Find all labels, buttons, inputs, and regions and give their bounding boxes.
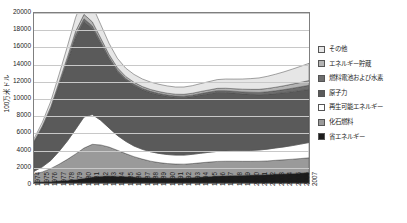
legend-item[interactable]: エネルギー貯蔵	[318, 57, 407, 72]
x-axis-tick: 1989	[161, 172, 167, 186]
legend-item[interactable]: 原子力	[318, 86, 407, 101]
legend-item-label: 原子力	[329, 90, 347, 96]
x-axis-tick: 1994	[203, 172, 209, 186]
x-axis-tick: 1981	[94, 172, 100, 186]
x-axis-tick: 1999	[245, 172, 251, 186]
legend-item-label: 燃料電池および水素	[329, 75, 383, 81]
plot-area	[33, 12, 310, 184]
gridline	[34, 133, 309, 134]
gridline	[34, 30, 309, 31]
x-axis-tick: 1977	[61, 172, 67, 186]
gridline	[34, 47, 309, 48]
gridline	[34, 168, 309, 169]
legend-item-label: 再生可能エネルギー	[329, 104, 383, 110]
gridline	[34, 65, 309, 66]
legend-item[interactable]: 再生可能エネルギー	[318, 100, 407, 115]
y-axis-tick: 12000	[13, 78, 31, 85]
x-axis-tick: 1998	[237, 172, 243, 186]
y-axis-tick: 18000	[13, 26, 31, 33]
y-axis-tick-labels: 0200040006000800010000120001400016000180…	[0, 12, 31, 184]
y-axis-tick: 4000	[17, 146, 31, 153]
y-axis-tick: 14000	[13, 60, 31, 67]
x-axis-tick: 1992	[186, 172, 192, 186]
gridline	[34, 82, 309, 83]
x-axis-tick: 2001	[262, 172, 268, 186]
legend-swatch-icon	[318, 119, 325, 126]
x-axis-tick: 1993	[195, 172, 201, 186]
legend-swatch-icon	[318, 104, 325, 111]
legend: その他エネルギー貯蔵燃料電池および水素原子力再生可能エネルギー化石燃料省エネルギ…	[318, 42, 407, 144]
x-axis-tick: 1988	[153, 172, 159, 186]
legend-item[interactable]: 燃料電池および水素	[318, 71, 407, 86]
y-axis-tick: 2000	[17, 164, 31, 171]
legend-item-label: 省エネルギー	[329, 134, 365, 140]
y-axis-tick: 8000	[17, 112, 31, 119]
x-axis-tick: 1980	[86, 172, 92, 186]
legend-swatch-icon	[318, 60, 325, 67]
legend-swatch-icon	[318, 75, 325, 82]
y-axis-tick: 6000	[17, 129, 31, 136]
stacked-area-chart: 100万米ドル 02000400060008000100001200014000…	[0, 0, 407, 223]
x-axis-tick: 2006	[304, 172, 310, 186]
legend-swatch-icon	[318, 133, 325, 140]
x-axis-tick: 1997	[228, 172, 234, 186]
area-series-layers	[34, 13, 309, 183]
y-axis-tick: 10000	[13, 95, 31, 102]
x-axis-tick: 1990	[170, 172, 176, 186]
x-axis-tick: 2004	[287, 172, 293, 186]
legend-item-label: 化石燃料	[329, 119, 353, 125]
x-axis-tick: 2003	[279, 172, 285, 186]
x-axis-tick: 1986	[136, 172, 142, 186]
x-axis-tick: 2007	[312, 172, 318, 186]
x-axis-tick: 1995	[212, 172, 218, 186]
x-axis-tick: 1985	[128, 172, 134, 186]
x-axis-tick: 1978	[69, 172, 75, 186]
x-axis-tick: 1982	[103, 172, 109, 186]
gridline	[34, 116, 309, 117]
x-axis-tick-labels: 1974197519761977197819791980198119821983…	[33, 186, 310, 223]
legend-item[interactable]: 省エネルギー	[318, 130, 407, 145]
legend-item[interactable]: その他	[318, 42, 407, 57]
x-axis-tick: 2002	[270, 172, 276, 186]
x-axis-tick: 2005	[296, 172, 302, 186]
x-axis-tick: 2000	[254, 172, 260, 186]
legend-swatch-icon	[318, 90, 325, 97]
legend-item[interactable]: 化石燃料	[318, 115, 407, 130]
y-axis-tick: 20000	[13, 9, 31, 16]
gridline	[34, 151, 309, 152]
y-axis-tick: 16000	[13, 43, 31, 50]
legend-swatch-icon	[318, 46, 325, 53]
x-axis-tick: 1987	[145, 172, 151, 186]
x-axis-tick: 1991	[178, 172, 184, 186]
x-axis-tick: 1979	[77, 172, 83, 186]
y-axis-tick: 0	[27, 181, 31, 188]
x-axis-tick: 1984	[119, 172, 125, 186]
x-axis-tick: 1976	[52, 172, 58, 186]
x-axis-tick: 1996	[220, 172, 226, 186]
x-axis-tick: 1983	[111, 172, 117, 186]
legend-item-label: その他	[329, 46, 347, 52]
x-axis-tick: 1975	[44, 172, 50, 186]
x-axis-tick: 1974	[35, 172, 41, 186]
gridline	[34, 99, 309, 100]
legend-item-label: エネルギー貯蔵	[329, 61, 371, 67]
gridline	[34, 13, 309, 14]
